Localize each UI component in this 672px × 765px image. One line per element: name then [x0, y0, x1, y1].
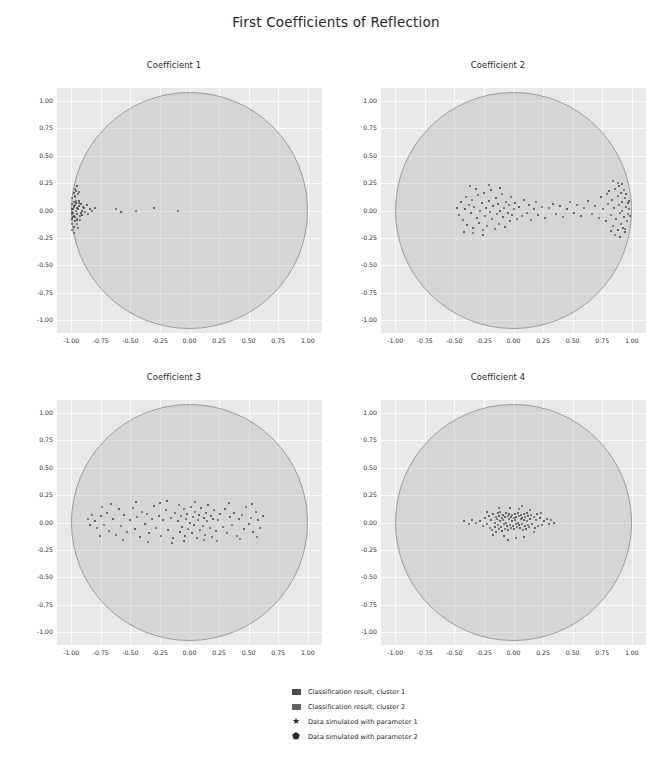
- data-point: [79, 219, 81, 221]
- data-point: [528, 526, 530, 528]
- data-point: [231, 524, 233, 526]
- subplot-coefficient-2: Coefficient 2 1.000.750.500.250.00-0.25-…: [348, 60, 648, 350]
- data-point: [512, 525, 514, 527]
- data-point: [504, 516, 506, 518]
- data-point: [555, 213, 557, 215]
- circle-glyph: ⬟: [292, 732, 300, 741]
- subplot-coefficient-1: Coefficient 1 1.000.750.500.250.00-0.25-…: [24, 60, 324, 350]
- data-point: [76, 213, 78, 215]
- data-point: [623, 189, 625, 191]
- data-point: [73, 205, 75, 207]
- data-point: [120, 211, 122, 213]
- plot-axes[interactable]: [381, 400, 646, 645]
- x-tick-label: 1.00: [294, 649, 322, 656]
- filled-circle-icon: ⬟: [288, 729, 304, 744]
- data-point: [612, 180, 614, 182]
- data-point: [77, 227, 79, 229]
- y-tick-label: -0.25: [348, 234, 377, 241]
- data-point: [497, 512, 499, 514]
- swatch: [292, 704, 301, 710]
- y-tick-label: 1.00: [348, 409, 377, 416]
- data-point: [521, 215, 523, 217]
- data-point: [619, 212, 621, 214]
- plot-axes[interactable]: [57, 88, 322, 333]
- y-tick-label: 0.25: [348, 179, 377, 186]
- data-point: [478, 222, 480, 224]
- x-tick-label: 1.00: [294, 337, 322, 344]
- data-point: [523, 513, 525, 515]
- x-tick-label: 0.75: [264, 337, 292, 344]
- data-point: [228, 502, 230, 504]
- data-point: [490, 189, 492, 191]
- x-tick-label: 0.25: [205, 649, 233, 656]
- x-tick-label: 0.75: [264, 649, 292, 656]
- y-tick-label: -1.00: [348, 628, 377, 635]
- data-point: [628, 200, 630, 202]
- x-tick-label: 0.25: [529, 649, 557, 656]
- y-tick-label: 0.50: [348, 152, 377, 159]
- subplot-title: Coefficient 1: [24, 60, 324, 70]
- x-tick-label: -0.75: [411, 649, 439, 656]
- data-point: [80, 203, 82, 205]
- data-point: [548, 523, 550, 525]
- data-point: [76, 223, 78, 225]
- data-point: [184, 535, 186, 537]
- data-point: [629, 215, 631, 217]
- data-point: [524, 525, 526, 527]
- legend-item[interactable]: ⬟Data simulated with parameter 2: [288, 729, 588, 744]
- y-tick-label: 0.75: [348, 436, 377, 443]
- x-tick-label: -0.75: [87, 649, 115, 656]
- y-tick-label: 0.75: [24, 436, 53, 443]
- data-point: [515, 537, 517, 539]
- data-point: [106, 512, 108, 514]
- data-point: [87, 213, 89, 215]
- data-point: [502, 216, 504, 218]
- data-point: [202, 525, 204, 527]
- plot-axes[interactable]: [381, 88, 646, 333]
- x-tick-label: -0.50: [440, 337, 468, 344]
- x-tick-label: -0.50: [116, 337, 144, 344]
- data-point: [120, 525, 122, 527]
- data-point: [526, 512, 528, 514]
- data-point: [476, 217, 478, 219]
- legend-item[interactable]: Classification result, cluster 1: [288, 684, 588, 699]
- x-tick-label: 0.50: [559, 337, 587, 344]
- x-tick-label: 0.00: [176, 649, 204, 656]
- y-tick-label: -0.75: [348, 289, 377, 296]
- star-glyph: ★: [292, 717, 300, 726]
- y-tick-label: 1.00: [348, 97, 377, 104]
- y-tick-label: -0.50: [24, 261, 53, 268]
- data-point: [521, 523, 523, 525]
- x-tick-label: 1.00: [618, 337, 646, 344]
- legend-item[interactable]: ★Data simulated with parameter 1: [288, 714, 588, 729]
- data-point: [72, 208, 74, 210]
- figure-canvas: First Coefficients of Reflection Coeffic…: [0, 0, 672, 765]
- data-point: [75, 190, 77, 192]
- x-tick-label: 0.75: [588, 337, 616, 344]
- data-point: [528, 204, 530, 206]
- data-point: [489, 211, 491, 213]
- y-tick-label: 0.00: [24, 207, 53, 214]
- data-point: [241, 514, 243, 516]
- data-point: [536, 513, 538, 515]
- x-tick-label: 0.00: [176, 337, 204, 344]
- data-point: [255, 511, 257, 513]
- x-tick-label: 1.00: [618, 649, 646, 656]
- data-point: [475, 188, 477, 190]
- plot-axes[interactable]: [57, 400, 322, 645]
- data-point: [514, 202, 516, 204]
- data-point: [99, 535, 101, 537]
- data-point: [614, 234, 616, 236]
- data-point: [541, 524, 543, 526]
- data-point: [73, 226, 75, 228]
- legend-item[interactable]: Classification result, cluster 2: [288, 699, 588, 714]
- data-point: [591, 213, 593, 215]
- data-point: [516, 526, 518, 528]
- data-point: [610, 214, 612, 216]
- data-point: [509, 524, 511, 526]
- x-tick-label: -0.75: [411, 337, 439, 344]
- data-point: [507, 212, 509, 214]
- data-point: [482, 234, 484, 236]
- y-tick-label: -0.75: [348, 601, 377, 608]
- data-point: [203, 539, 205, 541]
